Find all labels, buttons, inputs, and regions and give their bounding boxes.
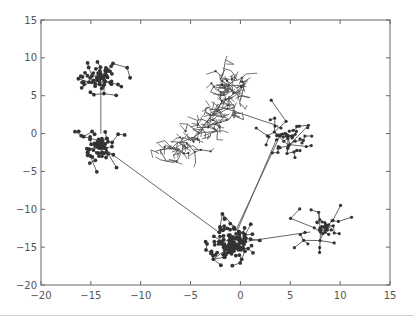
node-point (315, 220, 318, 223)
node-point (310, 208, 313, 211)
node-point (225, 226, 229, 230)
node-point (320, 225, 323, 228)
node-point (333, 241, 336, 244)
y-tick-label: 5 (31, 90, 37, 101)
node-point (318, 251, 321, 254)
node-point (318, 218, 321, 221)
node-point (128, 76, 132, 80)
x-tick-label: 5 (287, 290, 293, 301)
node-point (338, 232, 341, 235)
node-point (105, 136, 109, 140)
x-tick-labels: −20−15−10−5051015 (30, 290, 396, 301)
node-point (88, 135, 92, 139)
node-point (288, 143, 291, 146)
node-point (251, 251, 255, 255)
node-point (228, 237, 232, 241)
node-point (86, 74, 90, 78)
node-point (237, 253, 241, 257)
node-point (271, 151, 274, 154)
node-point (90, 155, 94, 159)
node-point (109, 64, 113, 68)
node-point (303, 134, 306, 137)
node-point (298, 137, 301, 140)
node-point (258, 239, 262, 243)
node-point (93, 158, 97, 162)
node-point (217, 230, 221, 234)
node-point (102, 151, 106, 155)
node-point (288, 130, 291, 133)
node-point (79, 74, 83, 78)
node-point (115, 166, 119, 170)
node-point (282, 140, 285, 143)
node-point (232, 241, 236, 245)
y-tick-label: −20 (16, 280, 37, 291)
node-point (91, 148, 95, 152)
node-point (210, 250, 214, 254)
node-point (285, 152, 288, 155)
node-point (298, 207, 301, 210)
node-point (77, 130, 81, 134)
node-point (114, 93, 118, 97)
node-point (212, 234, 216, 238)
node-point (110, 145, 114, 149)
plot-area (73, 56, 353, 268)
node-point (79, 134, 83, 138)
node-point (332, 224, 335, 227)
node-point (306, 126, 309, 129)
node-point (318, 246, 321, 249)
node-point (94, 67, 98, 71)
y-tick-label: 10 (24, 52, 37, 63)
node-point (102, 75, 106, 79)
node-point (313, 226, 316, 229)
node-point (300, 141, 303, 144)
node-point (125, 66, 129, 70)
node-point (249, 222, 253, 226)
node-point (92, 141, 96, 145)
node-point (286, 146, 289, 149)
node-point (88, 161, 92, 165)
node-point (82, 82, 86, 86)
node-point (275, 138, 278, 141)
node-point (240, 257, 244, 261)
node-point (244, 240, 248, 244)
node-point (243, 249, 247, 253)
node-point (333, 231, 336, 234)
node-point (350, 216, 353, 219)
node-point (269, 118, 272, 121)
node-point (97, 154, 101, 158)
node-point (85, 147, 89, 151)
node-point (101, 84, 105, 88)
node-point (87, 66, 91, 70)
y-tick-label: 0 (31, 128, 37, 139)
node-point (93, 84, 97, 88)
node-point (273, 130, 276, 133)
node-point (298, 149, 301, 152)
node-point (116, 132, 120, 136)
node-point (104, 66, 108, 70)
node-point (265, 143, 268, 146)
node-point (73, 130, 77, 134)
node-point (310, 144, 313, 147)
plot-content (73, 56, 353, 268)
node-point (303, 231, 306, 234)
node-point (273, 117, 276, 120)
node-point (270, 99, 273, 102)
y-tick-label: −15 (16, 242, 37, 253)
edge-line (109, 152, 221, 234)
bottom-divider (0, 315, 414, 316)
node-point (293, 156, 296, 159)
node-point (86, 61, 90, 65)
cluster-a (77, 60, 132, 97)
node-point (238, 261, 242, 265)
node-point (101, 143, 105, 147)
node-point (276, 151, 279, 154)
node-point (95, 170, 99, 174)
node-point (249, 237, 253, 241)
node-point (275, 134, 278, 137)
node-point (90, 80, 94, 84)
x-tick-label: −20 (30, 290, 51, 301)
y-tick-label: −5 (22, 166, 37, 177)
node-point (339, 204, 342, 207)
node-point (279, 126, 282, 129)
node-point (106, 76, 110, 80)
